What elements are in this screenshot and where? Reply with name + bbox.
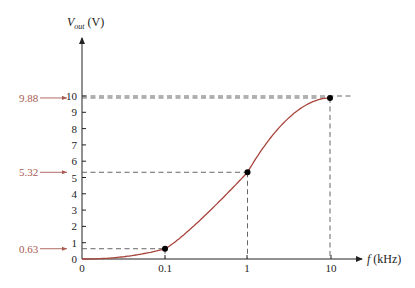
y-tick-label: 4 (72, 188, 78, 200)
x-tick-label: 10 (326, 262, 338, 274)
x-tick-label: 0 (79, 262, 85, 274)
annotation-label: 0.63 (19, 243, 39, 255)
x-tick-label: 1 (244, 262, 250, 274)
y-tick-label: 5 (72, 172, 78, 184)
annotation-label: 9.88 (19, 92, 39, 104)
y-tick-label: 7 (72, 139, 78, 151)
y-axis-ticks: 012345678910 (66, 90, 86, 265)
y-tick-label: 1 (72, 237, 78, 249)
value-annotations: 9.885.320.63 (19, 92, 67, 255)
y-tick-label: 0 (72, 253, 78, 265)
y-tick-label: 8 (72, 123, 78, 135)
y-tick-label: 6 (72, 155, 78, 167)
response-curve (82, 98, 329, 259)
x-tick-label: 0.1 (158, 262, 172, 274)
data-point (162, 246, 168, 252)
y-tick-label: 2 (72, 220, 78, 232)
chart-canvas: 012345678910 00.1110 Vout (V) f (kHz) 9.… (0, 0, 415, 288)
y-tick-label: 3 (72, 204, 78, 216)
x-axis-title: f (kHz) (367, 252, 401, 266)
y-tick-label: 9 (72, 106, 78, 118)
annotation-label: 5.32 (19, 166, 38, 178)
y-tick-label: 10 (66, 90, 78, 102)
dashed-guide-lines (82, 96, 353, 259)
data-point (245, 169, 251, 175)
y-axis-title: Vout (V) (67, 15, 104, 31)
data-point (327, 95, 333, 101)
